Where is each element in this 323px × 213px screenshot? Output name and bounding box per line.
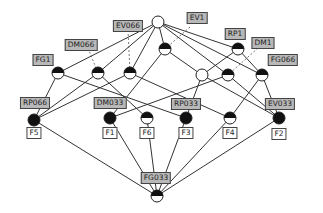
attribute-label-ev033: EV033 <box>265 98 295 110</box>
lattice-edge <box>98 73 147 118</box>
object-label-f6: F6 <box>139 127 154 139</box>
attribute-label-dm1: DM1 <box>251 37 274 49</box>
concept-node-f2[interactable] <box>273 112 285 124</box>
lattice-edge <box>262 75 279 118</box>
concept-node-bottom[interactable] <box>151 190 163 202</box>
concept-node-n4[interactable] <box>159 43 171 55</box>
concept-node-n7[interactable] <box>222 69 234 81</box>
attribute-label-rp1: RP1 <box>225 28 246 40</box>
attribute-label-fg066: FG066 <box>268 54 298 66</box>
attribute-label-rp033: RP033 <box>171 98 201 110</box>
concept-lattice-diagram: EV066EV1DM066RP1DM1FG1FG066RP066DM033RP0… <box>0 0 323 213</box>
attribute-label-dm066: DM066 <box>65 39 98 51</box>
attribute-label-fg1: FG1 <box>33 54 54 66</box>
lattice-edge <box>202 75 279 118</box>
lattice-edge <box>157 118 279 196</box>
concept-node-n5[interactable] <box>232 43 244 55</box>
concept-node-f1[interactable] <box>104 112 116 124</box>
object-label-f5: F5 <box>26 127 41 139</box>
attribute-label-dm033: DM033 <box>94 97 127 109</box>
attribute-label-fg033: FG033 <box>141 172 171 184</box>
concept-node-f6[interactable] <box>141 112 153 124</box>
lattice-edge <box>165 49 202 75</box>
concept-node-f5[interactable] <box>28 114 40 126</box>
concept-node-n1[interactable] <box>52 67 64 79</box>
concept-node-f3[interactable] <box>180 112 192 124</box>
object-label-f4: F4 <box>222 127 237 139</box>
lattice-edge <box>158 22 262 75</box>
concept-node-n2[interactable] <box>92 67 104 79</box>
lattice-edge <box>186 75 202 118</box>
concept-node-n6[interactable] <box>196 69 208 81</box>
attribute-label-rp066: RP066 <box>20 97 50 109</box>
object-label-f2: F2 <box>271 128 286 140</box>
concept-node-top[interactable] <box>152 16 164 28</box>
concept-node-n8[interactable] <box>256 69 268 81</box>
object-label-f3: F3 <box>178 127 193 139</box>
concept-node-n3[interactable] <box>124 67 136 79</box>
object-label-f1: F1 <box>102 127 117 139</box>
attribute-label-ev066: EV066 <box>113 20 143 32</box>
attribute-label-ev1: EV1 <box>187 12 208 24</box>
concept-node-f4[interactable] <box>224 112 236 124</box>
lattice-edge <box>230 75 262 118</box>
lattice-edge <box>228 75 279 118</box>
